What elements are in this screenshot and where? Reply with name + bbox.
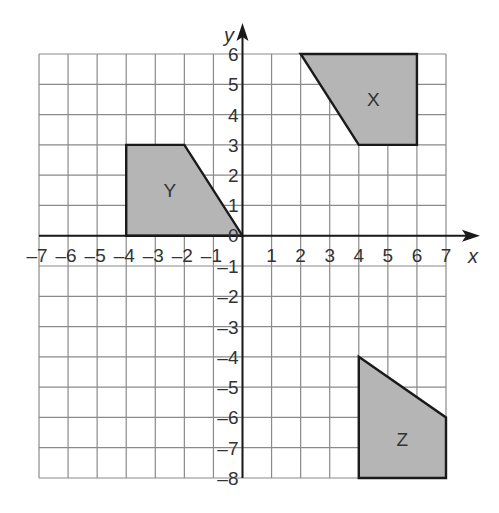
shape-z [359, 357, 446, 478]
x-tick-label: 5 [383, 245, 394, 266]
y-tick-label: 1 [228, 195, 239, 216]
x-tick-label: –6 [56, 245, 77, 266]
x-tick-label: 4 [353, 245, 364, 266]
x-tick-label: –5 [85, 245, 106, 266]
y-tick-label: 5 [228, 74, 239, 95]
y-tick-label: 2 [228, 165, 239, 186]
x-tick-label: –7 [26, 245, 47, 266]
y-tick-label: –8 [217, 468, 238, 489]
x-tick-label: 1 [266, 245, 277, 266]
y-tick-label: 6 [228, 44, 239, 65]
x-tick-label: –3 [143, 245, 164, 266]
y-tick-label: 3 [228, 135, 239, 156]
coordinate-grid: xy –7–6–5–4–3–2–112345676543210–1–2–3–4–… [0, 0, 499, 513]
y-axis-label: y [222, 24, 235, 46]
x-tick-label: 7 [441, 245, 452, 266]
y-tick-label: –3 [217, 317, 238, 338]
y-tick-label: –1 [217, 256, 238, 277]
y-tick-label: 4 [228, 105, 239, 126]
y-tick-label: –4 [217, 347, 239, 368]
x-tick-label: 6 [412, 245, 423, 266]
y-tick-label: –7 [217, 438, 238, 459]
shape-label-x: X [367, 89, 380, 110]
x-axis-label: x [467, 245, 479, 267]
x-tick-label: –4 [114, 245, 136, 266]
y-tick-label: –2 [217, 286, 238, 307]
y-tick-label: –5 [217, 377, 238, 398]
shape-label-z: Z [397, 429, 409, 450]
shape-label-y: Y [163, 180, 176, 201]
y-tick-label: 0 [228, 225, 239, 246]
x-tick-label: 3 [324, 245, 335, 266]
shape-y [126, 145, 242, 236]
x-tick-label: –2 [172, 245, 193, 266]
y-tick-label: –6 [217, 407, 238, 428]
shape-x [301, 54, 417, 145]
x-tick-label: 2 [295, 245, 306, 266]
